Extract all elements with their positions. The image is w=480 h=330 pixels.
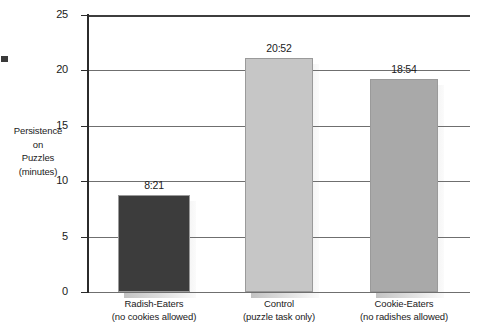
bar-cookie-eaters [370, 79, 438, 292]
category-main-control: Control [213, 297, 345, 310]
gridline-baseline [88, 292, 470, 293]
bar-body-cookie-eaters [370, 79, 438, 292]
bar-value-cookie-eaters: 18:54 [364, 64, 444, 75]
y-axis-line [87, 14, 89, 293]
bar-value-radish-eaters: 8:21 [114, 180, 194, 191]
y-tick-mark-5 [81, 237, 88, 238]
y-tick-mark-10 [81, 181, 88, 182]
category-main-radish-eaters: Radish-Eaters [88, 297, 220, 310]
category-sub-radish-eaters: (no cookies allowed) [88, 310, 220, 323]
y-axis-title-line-2: on [2, 138, 74, 152]
y-tick-label-0: 0 [28, 286, 68, 297]
scan-artifact-mark [1, 56, 8, 62]
bar-body-radish-eaters [118, 195, 190, 292]
bar-value-control: 20:52 [239, 43, 319, 54]
y-tick-label-25: 25 [28, 9, 68, 20]
category-label-cookie-eaters: Cookie-Eaters (no radishes allowed) [338, 297, 470, 323]
y-tick-mark-20 [81, 70, 88, 71]
category-label-control: Control (puzzle task only) [213, 297, 345, 323]
y-tick-mark-15 [81, 126, 88, 127]
category-sub-control: (puzzle task only) [213, 310, 345, 323]
gridline-25 [88, 15, 470, 17]
category-label-radish-eaters: Radish-Eaters (no cookies allowed) [88, 297, 220, 323]
bar-control [245, 58, 313, 292]
y-tick-mark-25 [81, 15, 88, 16]
category-main-cookie-eaters: Cookie-Eaters [338, 297, 470, 310]
category-sub-cookie-eaters: (no radishes allowed) [338, 310, 470, 323]
y-tick-label-5: 5 [28, 231, 68, 242]
bar-chart: Persistence on Puzzles (minutes) 25 20 1… [0, 0, 480, 330]
bar-body-control [245, 58, 313, 292]
y-axis-title-line-3: Puzzles [2, 151, 74, 165]
y-tick-mark-0 [81, 292, 88, 293]
y-axis-title: Persistence on Puzzles (minutes) [2, 124, 74, 178]
y-tick-label-15: 15 [28, 120, 68, 131]
y-tick-label-20: 20 [28, 64, 68, 75]
y-tick-label-10: 10 [28, 175, 68, 186]
bar-radish-eaters [118, 195, 190, 292]
